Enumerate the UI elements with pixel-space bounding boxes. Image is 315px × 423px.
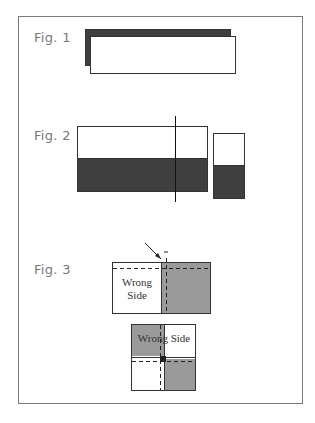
fig1-fabric-layers (86, 30, 236, 74)
svg-text:Wrong Side: Wrong Side (138, 332, 191, 344)
fig3-top-unit: Wrong Side (113, 243, 211, 314)
svg-text:Side: Side (127, 289, 147, 301)
fig3-bottom-unit: Wrong Side (132, 325, 196, 391)
svg-text:Wrong: Wrong (122, 276, 153, 288)
diagram-drawing: Wrong Side Wrong Side (0, 0, 315, 423)
fig2-strip-set (78, 116, 245, 202)
